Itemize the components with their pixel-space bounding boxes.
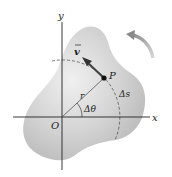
rotation-arrow-icon	[131, 35, 153, 58]
origin-label: O	[51, 120, 59, 131]
x-axis-label: x	[152, 112, 158, 123]
rotation-arrowhead-icon	[126, 30, 135, 40]
radius-label: r	[80, 91, 85, 101]
point-label: P	[108, 70, 116, 81]
arc-length-label: Δs	[118, 89, 130, 99]
velocity-label: v	[74, 46, 80, 57]
y-axis-label: y	[57, 10, 64, 21]
angle-label: Δθ	[83, 104, 96, 114]
point-p	[101, 75, 106, 80]
rotation-diagram: y x O P v r Δθ Δs	[0, 0, 172, 177]
